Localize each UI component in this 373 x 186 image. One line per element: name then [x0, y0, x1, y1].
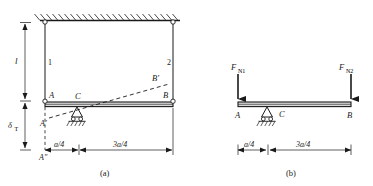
- dimension-3a-over-4-label: 3a/4: [112, 140, 127, 149]
- force-fn2-label: F: [338, 62, 345, 72]
- dimension-row-b: a/4 3a/4: [238, 140, 351, 155]
- roller-left-icon: [71, 117, 75, 121]
- roller-left-icon: [261, 117, 265, 121]
- dimension-a-over-4-label: a/4: [244, 140, 254, 149]
- point-b-label: B: [163, 90, 168, 100]
- pin-joint-a-icon: [43, 99, 47, 103]
- force-fn1-subscript: N1: [238, 68, 245, 74]
- force-fn1-label: F: [230, 62, 237, 72]
- ground-hatch-icon: [257, 121, 275, 126]
- rod-1: 1: [43, 20, 52, 101]
- delta-subscript-label: T: [15, 126, 19, 132]
- ground-hatch-icon: [67, 121, 85, 126]
- length-label: l: [15, 56, 18, 66]
- ceiling-fixed-support: [35, 14, 181, 21]
- support-triangle-icon: [262, 107, 273, 117]
- rigid-bar-ab-b: A B C: [234, 102, 352, 120]
- point-a-prime-label: A′: [39, 119, 47, 128]
- point-b-label: B: [347, 110, 352, 120]
- roller-right-icon: [269, 117, 273, 121]
- engineering-diagram-svg: 1 2 l δ T A B C: [0, 0, 373, 186]
- point-b-prime-label: B′: [152, 73, 159, 83]
- roller-right-icon: [79, 117, 83, 121]
- panel-a-caption: (a): [100, 168, 110, 178]
- point-a-double-prime-label: A″: [38, 153, 48, 162]
- point-a-label: A: [48, 90, 55, 100]
- support-c-b: [257, 107, 276, 126]
- pin-joint-b-icon: [171, 99, 175, 103]
- support-triangle-icon: [72, 107, 83, 117]
- point-a-label: A: [234, 110, 241, 120]
- pin-joint-top-left-icon: [43, 20, 47, 24]
- panel-b: F N1 F N2 A B C: [230, 62, 353, 178]
- panel-b-caption: (b): [286, 168, 296, 178]
- pin-joint-top-right-icon: [171, 20, 175, 24]
- deflection-line-a-prime-b-prime: [49, 84, 169, 118]
- panel-a: 1 2 l δ T A B C: [8, 14, 180, 178]
- rod-2-label: 2: [167, 58, 171, 67]
- figure-canvas: 1 2 l δ T A B C: [0, 0, 373, 186]
- rod-1-label: 1: [48, 58, 52, 67]
- dimension-row-a: a/4 3a/4: [45, 108, 173, 155]
- point-c-label: C: [75, 91, 81, 101]
- rod-2: 2: [167, 20, 175, 101]
- force-fn2-subscript: N2: [346, 68, 353, 74]
- point-c-label: C: [279, 109, 285, 119]
- ceiling-hatch-icon: [35, 14, 179, 21]
- dimension-length-l: l: [15, 23, 31, 102]
- dimension-3a-over-4-label: 3a/4: [295, 140, 310, 149]
- force-fn1: F N1: [230, 62, 245, 99]
- delta-label: δ: [8, 120, 13, 130]
- dimension-a-over-4-label: a/4: [54, 140, 64, 149]
- dimension-delta-t: δ T: [8, 103, 31, 150]
- force-fn2: F N2: [338, 62, 353, 99]
- rigid-bar-ab-a: A B C: [43, 90, 175, 107]
